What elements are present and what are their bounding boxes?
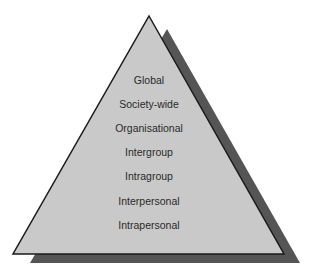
level-society-wide: Society-wide	[0, 98, 298, 110]
level-interpersonal: Interpersonal	[0, 195, 298, 207]
level-organisational: Organisational	[0, 122, 298, 134]
level-intragroup: Intragroup	[0, 170, 298, 182]
level-global: Global	[0, 74, 298, 86]
pyramid-graphic	[0, 0, 312, 275]
level-intrapersonal: Intrapersonal	[0, 219, 298, 231]
level-intergroup: Intergroup	[0, 146, 298, 158]
